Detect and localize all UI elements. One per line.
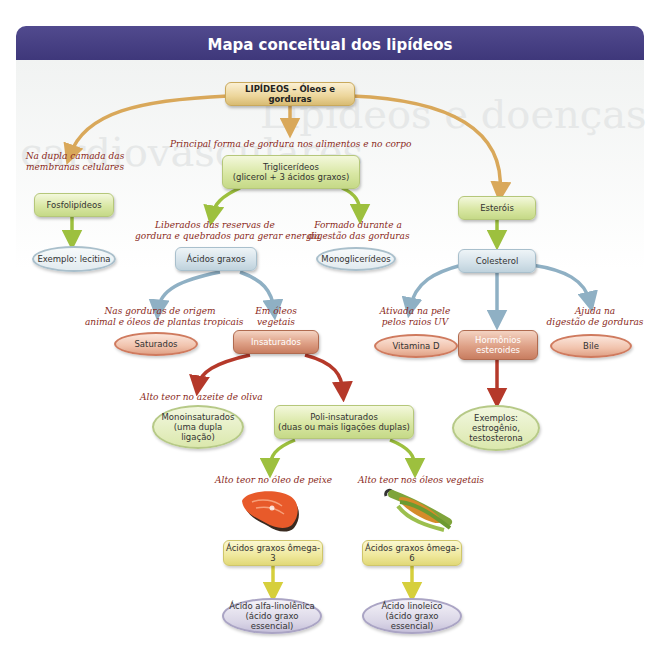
- node-lipideos: LIPÍDEOS – Óleos e gorduras: [225, 82, 355, 106]
- node-label: (uma dupla: [162, 422, 235, 432]
- node-lipideos-label: LIPÍDEOS – Óleos e gorduras: [226, 84, 354, 104]
- node-monoglicerideos: Monoglicerídeos: [316, 247, 396, 271]
- node-colesterol: Colesterol: [458, 249, 536, 273]
- node-label: Vitamina D: [392, 341, 439, 351]
- label-line: pelos raios UV: [375, 317, 455, 328]
- node-omega-6: Ácidos graxos ômega-6: [362, 540, 462, 566]
- label-membranas: Na dupla camada das membranas celulares: [20, 151, 130, 173]
- node-triglicerideos: Triglicerídeos(glicerol + 3 ácidos graxo…: [222, 155, 360, 189]
- label-formado: Formado durante a digestão das gorduras: [308, 220, 408, 242]
- node-label: Exemplo: lecitina: [37, 254, 110, 264]
- label-line: Formado durante a: [308, 220, 408, 231]
- label-line: vegetais: [246, 317, 306, 328]
- node-label: (glicerol + 3 ácidos graxos): [233, 172, 350, 182]
- node-label: (ácido graxo essencial): [224, 611, 320, 631]
- label-principal: Principal forma de gordura nos alimentos…: [170, 139, 410, 150]
- corn-cob-image: [378, 486, 458, 534]
- node-lecitina: Exemplo: lecitina: [32, 246, 116, 272]
- node-hormonios-esteroides: Hormôniosesteroides: [458, 330, 538, 360]
- node-exemplos-hormonios: Exemplos:estrogênio,testosterona: [452, 405, 540, 451]
- label-ajuda: Ajuda na digestão de gorduras: [545, 306, 645, 328]
- label-oliva: Alto teor no azeite de oliva: [140, 392, 260, 403]
- label-line: animal e óleos de plantas tropicais: [85, 317, 235, 328]
- node-label: Fosfolipídeos: [46, 200, 101, 210]
- label-line: digestão de gorduras: [545, 317, 645, 328]
- node-fosfolipideos: Fosfolipídeos: [34, 193, 114, 217]
- node-label: (ácido graxo essencial): [364, 611, 460, 631]
- label-line: digestão das gorduras: [308, 231, 408, 242]
- label-oleos-vegetais: Em óleos vegetais: [246, 306, 306, 328]
- node-label: Insaturados: [251, 337, 301, 347]
- node-monoinsaturados: Monoinsaturados(uma duplaligação): [152, 405, 244, 449]
- label-line: gordura e quebrados para gerar energia: [135, 231, 295, 242]
- label-line: Na dupla camada das: [20, 151, 130, 162]
- node-label: Hormônios: [475, 335, 521, 345]
- label-peixe: Alto teor no óleo de peixe: [215, 475, 330, 486]
- label-ativada: Ativada na pele pelos raios UV: [375, 306, 455, 328]
- node-omega-3: Ácidos graxos ômega-3: [223, 540, 323, 566]
- node-label: esteroides: [475, 345, 521, 355]
- label-vegetais: Alto teor nos óleos vegetais: [358, 475, 478, 486]
- node-acido-alfa-linolenica: Ácido alfa-linolênica(ácido graxo essenc…: [222, 598, 322, 634]
- label-line: membranas celulares: [20, 162, 130, 173]
- node-label: Saturados: [134, 339, 177, 349]
- label-line: Nas gorduras de origem: [85, 306, 235, 317]
- node-label: estrogênio,: [469, 423, 523, 433]
- label-line: Liberados das reservas de: [135, 220, 295, 231]
- node-label: Ácidos graxos ômega-3: [224, 543, 322, 563]
- salmon-steak-image: [238, 490, 304, 534]
- node-vitamina-d: Vitamina D: [374, 334, 458, 358]
- node-acido-linoleico: Ácido linoleico(ácido graxo essencial): [362, 598, 462, 634]
- node-acidos-graxos: Ácidos graxos: [175, 247, 257, 271]
- node-label: (duas ou mais ligações duplas): [278, 422, 410, 432]
- node-esterois: Esteróis: [458, 196, 536, 220]
- node-bile: Bile: [550, 334, 632, 358]
- label-line: Ajuda na: [545, 306, 645, 317]
- node-label: Ácido linoleico: [364, 601, 460, 611]
- node-label: Exemplos:: [469, 413, 523, 423]
- node-label: ligação): [162, 432, 235, 442]
- node-label: Monoinsaturados: [162, 412, 235, 422]
- node-label: Esteróis: [480, 203, 514, 213]
- node-label: Ácido alfa-linolênica: [224, 601, 320, 611]
- node-saturados: Saturados: [114, 332, 198, 356]
- node-label: Colesterol: [476, 256, 519, 266]
- node-label: Ácidos graxos ômega-6: [363, 543, 461, 563]
- label-line: Ativada na pele: [375, 306, 455, 317]
- node-label: Monoglicerídeos: [321, 254, 390, 264]
- node-label: Bile: [583, 341, 599, 351]
- label-origem: Nas gorduras de origem animal e óleos de…: [85, 306, 235, 328]
- node-label: Triglicerídeos: [233, 162, 350, 172]
- node-label: testosterona: [469, 433, 523, 443]
- node-label: Poli-insaturados: [278, 412, 410, 422]
- node-label: Ácidos graxos: [187, 254, 246, 264]
- label-line: Em óleos: [246, 306, 306, 317]
- label-liberados: Liberados das reservas de gordura e queb…: [135, 220, 295, 242]
- node-poli-insaturados: Poli-insaturados(duas ou mais ligações d…: [274, 405, 414, 439]
- node-insaturados: Insaturados: [233, 330, 319, 354]
